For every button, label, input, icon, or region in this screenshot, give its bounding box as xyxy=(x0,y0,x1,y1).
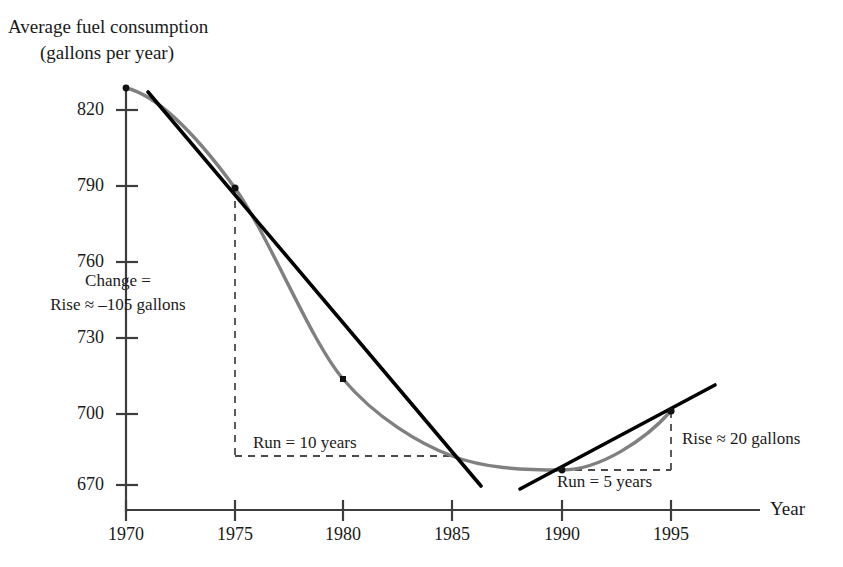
marker-1995 xyxy=(667,407,674,414)
fuel-consumption-chart: Average fuel consumption (gallons per ye… xyxy=(0,0,843,567)
right-rise-run-guides xyxy=(562,411,671,470)
y-tick-label-700: 700 xyxy=(38,403,104,424)
x-tick-label-1990: 1990 xyxy=(518,524,606,545)
run-left-annotation: Run = 10 years xyxy=(253,433,357,453)
y-tick-label-760: 760 xyxy=(38,251,104,272)
y-tick-label-820: 820 xyxy=(38,99,104,120)
x-tick-label-1980: 1980 xyxy=(299,524,387,545)
marker-1970 xyxy=(123,85,130,92)
run-right-annotation: Run = 5 years xyxy=(557,472,652,492)
y-tick-label-730: 730 xyxy=(38,327,104,348)
rise-right-annotation: Rise ≈ 20 gallons xyxy=(682,429,800,449)
change-annotation: Change = xyxy=(22,271,214,291)
x-tick-label-1995: 1995 xyxy=(627,524,715,545)
marker-1975 xyxy=(231,184,238,191)
x-tick-label-1970: 1970 xyxy=(82,524,170,545)
rise-left-annotation: Rise ≈ –105 gallons xyxy=(22,295,214,315)
marker-1980 xyxy=(340,376,346,382)
x-axis-label: Year xyxy=(770,498,805,520)
y-tick-label-790: 790 xyxy=(38,175,104,196)
x-tick-label-1985: 1985 xyxy=(408,524,496,545)
x-tick-label-1975: 1975 xyxy=(191,524,279,545)
y-tick-label-670: 670 xyxy=(38,474,104,495)
